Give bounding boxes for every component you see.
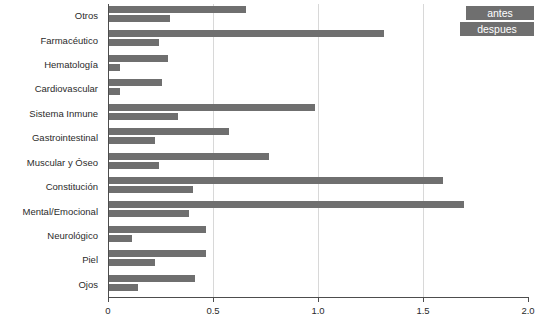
bar-despues <box>109 39 159 46</box>
bar-antes <box>109 128 229 135</box>
bar-antes <box>109 55 168 62</box>
category-label: Piel <box>0 255 98 265</box>
bar-despues <box>109 235 132 242</box>
category-label: Gastrointestinal <box>0 133 98 143</box>
bar-group <box>109 53 529 77</box>
x-axis-tick-label: 1.0 <box>311 305 324 316</box>
bar-despues <box>109 15 170 22</box>
x-axis-tick-label: 0 <box>105 305 110 316</box>
bar-antes <box>109 30 384 37</box>
bar-antes <box>109 153 269 160</box>
bar-antes <box>109 177 443 184</box>
bar-group <box>109 175 529 199</box>
category-label: Neurológico <box>0 231 98 241</box>
category-label: Farmacéutico <box>0 36 98 46</box>
category-axis-labels: OtrosFarmacéuticoHematologíaCardiovascul… <box>0 0 104 301</box>
legend-label-despues: despues <box>460 22 534 36</box>
x-axis-tick-label: 2.0 <box>521 305 534 316</box>
bar-group <box>109 77 529 101</box>
bar-despues <box>109 210 189 217</box>
legend-item-despues: despues <box>466 22 534 36</box>
x-axis-tick <box>528 297 529 302</box>
bar-group <box>109 151 529 175</box>
x-axis-tick-label: 0.5 <box>206 305 219 316</box>
bar-despues <box>109 186 193 193</box>
x-axis-tick <box>423 297 424 302</box>
bar-despues <box>109 137 155 144</box>
bar-group <box>109 224 529 248</box>
bar-antes <box>109 250 206 257</box>
category-label: Muscular y Óseo <box>0 158 98 168</box>
legend-label-antes: antes <box>466 6 534 20</box>
legend-item-antes: antes <box>466 6 534 20</box>
bar-group <box>109 102 529 126</box>
bar-despues <box>109 113 178 120</box>
bar-antes <box>109 226 206 233</box>
bar-group <box>109 126 529 150</box>
bar-antes <box>109 201 464 208</box>
category-label: Otros <box>0 11 98 21</box>
bar-despues <box>109 284 138 291</box>
x-axis-tick <box>318 297 319 302</box>
horizontal-bar-chart: OtrosFarmacéuticoHematologíaCardiovascul… <box>0 0 540 325</box>
x-axis-tick <box>108 297 109 302</box>
bar-group <box>109 199 529 223</box>
bar-despues <box>109 88 120 95</box>
category-label: Ojos <box>0 280 98 290</box>
legend: antes despues <box>466 6 534 38</box>
bar-antes <box>109 104 315 111</box>
bar-group <box>109 273 529 297</box>
category-label: Sistema Inmune <box>0 109 98 119</box>
category-label: Mental/Emocional <box>0 207 98 217</box>
x-axis-tick-label: 1.5 <box>416 305 429 316</box>
plot-area <box>108 4 528 297</box>
bar-despues <box>109 64 120 71</box>
bar-antes <box>109 6 246 13</box>
x-axis-tick <box>213 297 214 302</box>
bar-antes <box>109 79 162 86</box>
bar-despues <box>109 259 155 266</box>
bar-group <box>109 248 529 272</box>
category-label: Cardiovascular <box>0 84 98 94</box>
category-label: Constitución <box>0 182 98 192</box>
bar-antes <box>109 275 195 282</box>
category-label: Hematología <box>0 60 98 70</box>
bar-despues <box>109 162 159 169</box>
